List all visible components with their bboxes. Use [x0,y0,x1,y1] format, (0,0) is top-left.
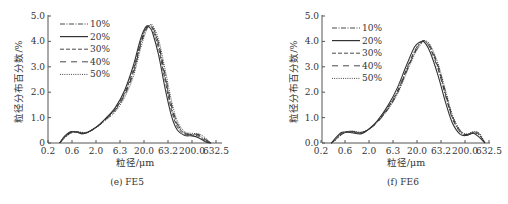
panel-caption: (e) FE5 [110,177,144,187]
legend-label: 20% [90,32,110,42]
series-line-50pct [60,24,211,143]
x-tick-label: 632.5 [476,146,502,156]
y-tick-label: 4.0 [31,36,46,46]
legend-label: 30% [362,48,382,58]
series-line-40pct [60,25,211,143]
y-tick-label: 5.0 [31,11,46,21]
legend-label: 50% [362,73,382,83]
x-tick-label: 20.0 [134,146,154,156]
series-line-10pct [60,25,211,143]
legend-label: 20% [362,36,382,46]
x-tick-label: 20.0 [407,146,427,156]
y-tick-label: 1.0 [305,113,320,123]
x-tick-label: 6.3 [386,146,401,156]
y-axis-label: 粒径分布百分数/% [288,40,299,122]
x-axis-label: 粒径/μm [387,157,425,168]
series-line-30pct [331,41,485,143]
chart-panel-fe6: 0.01.02.03.04.05.00.20.62.06.320.063.220… [288,11,502,187]
x-tick-label: 200.0 [179,146,205,156]
y-axis-label: 粒径分布百分数/% [13,40,24,122]
x-tick-label: 0.6 [338,146,353,156]
legend-label: 50% [90,69,110,79]
x-tick-label: 0.2 [314,146,328,156]
chart-panel-fe5: 01.02.03.04.05.00.20.62.06.320.063.2200.… [13,11,229,187]
y-tick-label: 5.0 [305,11,320,21]
x-tick-label: 632.5 [203,146,229,156]
x-tick-label: 2.0 [362,146,377,156]
series-line-20pct [331,41,485,143]
panel-caption: (f) FE6 [387,177,419,187]
legend-label: 30% [90,44,110,54]
series-line-20pct [60,26,211,143]
series-line-10pct [331,41,485,143]
x-tick-label: 6.3 [113,146,128,156]
x-tick-label: 200.0 [452,146,478,156]
y-tick-label: 2.0 [31,87,46,97]
series-line-50pct [331,41,485,143]
x-axis-label: 粒径/μm [116,157,154,168]
figure: 01.02.03.04.05.00.20.62.06.320.063.2200.… [0,0,508,204]
x-tick-label: 2.0 [89,146,104,156]
x-tick-label: 63.2 [158,146,178,156]
y-tick-label: 3.0 [31,62,46,72]
y-tick-label: 1.0 [31,113,46,123]
legend-label: 10% [90,19,110,29]
legend-label: 40% [90,57,110,67]
x-tick-label: 63.2 [431,146,451,156]
series-line-40pct [331,41,485,143]
legend-label: 40% [362,61,382,71]
y-tick-label: 3.0 [305,62,320,72]
y-tick-label: 2.0 [305,87,320,97]
series-line-30pct [60,26,211,143]
y-tick-label: 4.0 [305,36,320,46]
legend-label: 10% [362,23,382,33]
x-tick-label: 0.2 [41,146,55,156]
x-tick-label: 0.6 [65,146,80,156]
